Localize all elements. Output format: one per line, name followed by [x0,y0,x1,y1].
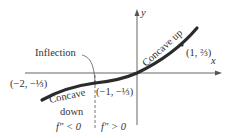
fpp-positive-label: f″ > 0 [101,121,127,132]
fpp-negative-label: f″ < 0 [56,121,82,132]
point-label-neg2: (−2, −⅓) [10,78,48,90]
point-label-neg1: (−1, −⅓) [96,86,134,98]
concavity-diagram: y x Inflection (−2, −⅓) (−1, −⅓) (1, ⅔) … [0,0,229,138]
point-label-1: (1, ⅔) [186,47,212,59]
concave-down-label-2: down [60,106,84,117]
x-axis-arrow-icon [215,71,222,76]
y-axis-label: y [140,7,146,18]
y-axis-arrow-icon [135,9,140,16]
inflection-label: Inflection [35,47,77,58]
point-inflection [93,81,96,84]
inflection-pointer [82,55,95,82]
concave-down-label-1: Concave [48,86,87,104]
point-1 [180,43,183,46]
